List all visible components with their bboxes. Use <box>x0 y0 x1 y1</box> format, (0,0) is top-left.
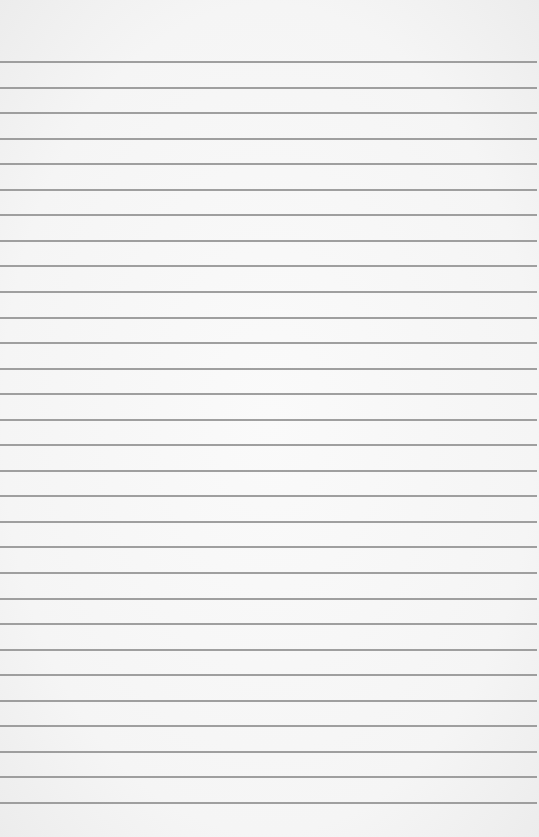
ruled-line <box>0 674 537 676</box>
ruled-line <box>0 265 537 267</box>
ruled-line <box>0 725 537 727</box>
ruled-line <box>0 163 537 165</box>
ruled-line <box>0 87 537 89</box>
ruled-line <box>0 521 537 523</box>
ruled-line <box>0 751 537 753</box>
ruled-line <box>0 572 537 574</box>
ruled-line <box>0 495 537 497</box>
ruled-line <box>0 342 537 344</box>
ruled-line <box>0 189 537 191</box>
ruled-line <box>0 546 537 548</box>
ruled-line <box>0 623 537 625</box>
ruled-line <box>0 368 537 370</box>
ruled-line <box>0 240 537 242</box>
ruled-line <box>0 598 537 600</box>
ruled-line <box>0 444 537 446</box>
ruled-line <box>0 317 537 319</box>
ruled-line <box>0 802 537 804</box>
ruled-line <box>0 112 537 114</box>
ruled-line <box>0 61 537 63</box>
lined-paper-sheet <box>0 0 539 837</box>
ruled-line <box>0 138 537 140</box>
ruled-line <box>0 649 537 651</box>
ruled-line <box>0 776 537 778</box>
ruled-line <box>0 700 537 702</box>
ruled-line <box>0 419 537 421</box>
ruled-line <box>0 291 537 293</box>
ruled-line <box>0 393 537 395</box>
ruled-line <box>0 470 537 472</box>
ruled-line <box>0 214 537 216</box>
